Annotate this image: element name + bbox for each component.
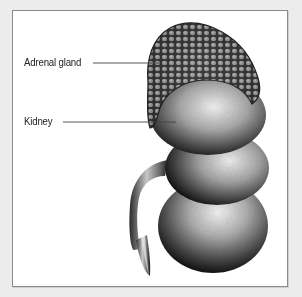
kidney-label: Kidney (24, 115, 52, 127)
adrenal-gland-label: Adrenal gland (24, 56, 81, 68)
kidney-illustration (0, 0, 302, 297)
kidney (150, 75, 269, 273)
